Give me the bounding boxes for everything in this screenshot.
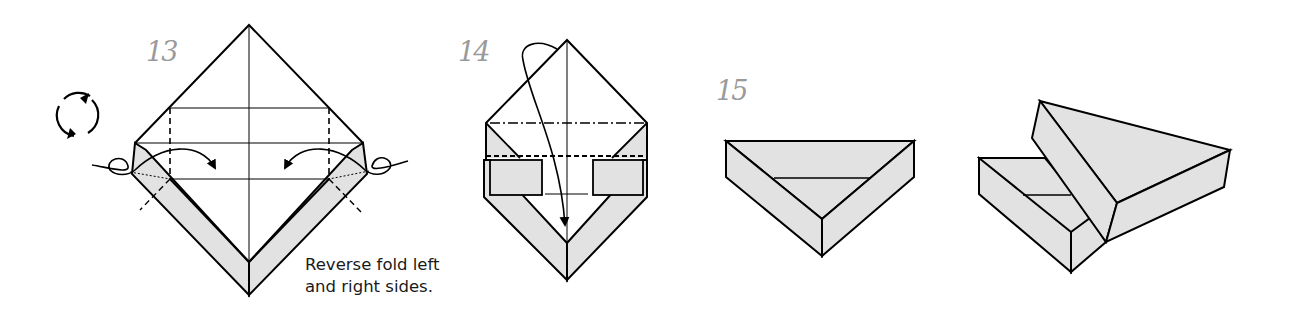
step-13-diagram <box>57 25 408 295</box>
finished-box-diagram <box>979 101 1230 272</box>
left-band <box>132 143 249 295</box>
rotate-model-icon <box>57 93 98 139</box>
step-15-diagram <box>726 141 914 256</box>
fold-down-arrow <box>522 43 565 225</box>
step-14-diagram <box>484 40 647 280</box>
right-band <box>249 143 367 295</box>
